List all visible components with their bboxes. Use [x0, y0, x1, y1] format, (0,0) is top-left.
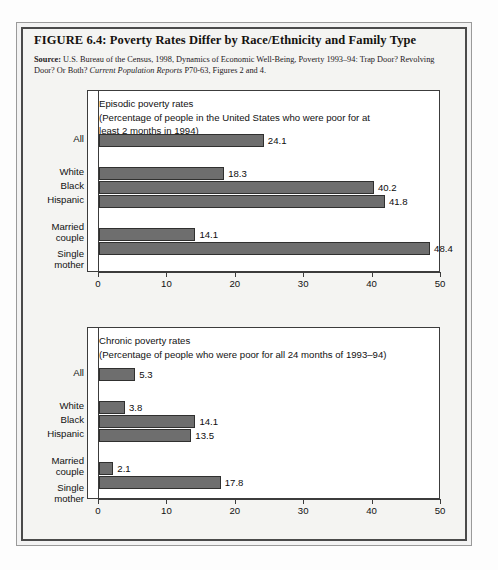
bar-hispanic — [99, 429, 191, 442]
category-label-line: couple — [0, 466, 84, 477]
x-axis-line — [98, 499, 440, 500]
source-publication-title: Current Population Reports — [90, 66, 183, 75]
figure-title: FIGURE 6.4: Poverty Rates Differ by Race… — [34, 33, 456, 48]
x-axis-line — [98, 272, 440, 273]
category-labels-chronic: AllWhiteBlackHispanicMarriedcoupleSingle… — [0, 327, 84, 499]
category-label-line: Single — [0, 248, 84, 259]
x-axis-tick-label: 0 — [95, 278, 100, 289]
category-label-hispanic: Hispanic — [0, 428, 84, 439]
x-axis-tick-label: 10 — [161, 278, 172, 289]
bar-black — [99, 181, 374, 194]
category-label-black: Black — [0, 180, 84, 191]
category-label-married-couple: Marriedcouple — [0, 455, 84, 477]
category-label-single-mother: Singlemother — [0, 248, 84, 270]
category-label-line: Married — [0, 455, 84, 466]
x-axis-tick — [372, 499, 373, 504]
category-label-line: Black — [0, 180, 84, 191]
x-axis-tick — [440, 272, 441, 277]
x-axis-tick — [235, 499, 236, 504]
category-label-all: All — [0, 133, 84, 144]
chart-panel-episodic: Episodic poverty rates (Percentage of pe… — [87, 90, 440, 272]
bar-single-mother — [99, 476, 221, 489]
x-axis-tick — [98, 272, 99, 277]
bar-married-couple — [99, 228, 195, 241]
category-label-line: Married — [0, 221, 84, 232]
category-label-line: All — [0, 367, 84, 378]
bar-value-label: 14.1 — [199, 415, 218, 428]
category-label-white: White — [0, 400, 84, 411]
x-axis-tick-label: 40 — [366, 278, 377, 289]
source-text-part2: P70-63, Figures 2 and 4. — [182, 66, 266, 75]
x-axis-tick-label: 50 — [435, 278, 446, 289]
x-axis-tick-label: 0 — [95, 505, 100, 516]
bar-value-label: 18.3 — [228, 167, 247, 180]
bar-single-mother — [99, 242, 430, 255]
category-label-line: mother — [0, 493, 84, 504]
y-axis-line-chronic — [98, 327, 99, 500]
category-label-line: Black — [0, 414, 84, 425]
category-label-line: White — [0, 400, 84, 411]
category-label-line: mother — [0, 259, 84, 270]
category-label-line: White — [0, 166, 84, 177]
category-label-single-mother: Singlemother — [0, 482, 84, 504]
category-label-white: White — [0, 166, 84, 177]
category-label-line: All — [0, 133, 84, 144]
plot-area-episodic: 24.118.340.241.814.148.4 — [99, 91, 439, 271]
bar-value-label: 3.8 — [129, 401, 142, 414]
bar-white — [99, 401, 125, 414]
bar-black — [99, 415, 195, 428]
x-axis-tick-label: 20 — [229, 278, 240, 289]
x-axis-tick — [166, 499, 167, 504]
bar-value-label: 17.8 — [225, 476, 244, 489]
x-axis-tick — [372, 272, 373, 277]
category-label-line: Hispanic — [0, 428, 84, 439]
plot-area-chronic: 5.33.814.113.52.117.8 — [99, 328, 439, 498]
category-label-black: Black — [0, 414, 84, 425]
x-axis-episodic: 01020304050 — [98, 272, 440, 290]
x-axis-tick-label: 50 — [435, 505, 446, 516]
bar-married-couple — [99, 462, 113, 475]
bar-value-label: 13.5 — [195, 429, 214, 442]
y-axis-line-episodic — [98, 90, 99, 273]
bar-value-label: 48.4 — [434, 242, 453, 255]
x-axis-tick — [166, 272, 167, 277]
x-axis-chronic: 01020304050 — [98, 499, 440, 517]
figure-source: Source: U.S. Bureau of the Census, 1998,… — [34, 54, 456, 76]
x-axis-tick — [440, 499, 441, 504]
bar-value-label: 14.1 — [199, 228, 218, 241]
category-label-line: couple — [0, 232, 84, 243]
category-labels-episodic: AllWhiteBlackHispanicMarriedcoupleSingle… — [0, 90, 84, 272]
bar-value-label: 41.8 — [389, 195, 408, 208]
category-label-line: Hispanic — [0, 194, 84, 205]
scanned-page-background: FIGURE 6.4: Poverty Rates Differ by Race… — [0, 0, 498, 570]
x-axis-tick — [303, 272, 304, 277]
bar-value-label: 24.1 — [268, 134, 287, 147]
x-axis-tick-label: 40 — [366, 505, 377, 516]
x-axis-tick-label: 30 — [298, 505, 309, 516]
chart-panel-chronic: Chronic poverty rates (Percentage of peo… — [87, 327, 440, 499]
x-axis-tick — [98, 499, 99, 504]
bar-white — [99, 167, 224, 180]
category-label-all: All — [0, 367, 84, 378]
bar-hispanic — [99, 195, 385, 208]
bar-all — [99, 368, 135, 381]
x-axis-tick — [303, 499, 304, 504]
source-label: Source: — [34, 55, 61, 64]
category-label-line: Single — [0, 482, 84, 493]
bar-value-label: 40.2 — [378, 181, 397, 194]
bar-value-label: 2.1 — [117, 462, 130, 475]
bar-all — [99, 134, 264, 147]
figure-header: FIGURE 6.4: Poverty Rates Differ by Race… — [34, 33, 456, 76]
x-axis-tick — [235, 272, 236, 277]
x-axis-tick-label: 30 — [298, 278, 309, 289]
x-axis-tick-label: 10 — [161, 505, 172, 516]
category-label-hispanic: Hispanic — [0, 194, 84, 205]
x-axis-tick-label: 20 — [229, 505, 240, 516]
bar-value-label: 5.3 — [139, 368, 152, 381]
category-label-married-couple: Marriedcouple — [0, 221, 84, 243]
